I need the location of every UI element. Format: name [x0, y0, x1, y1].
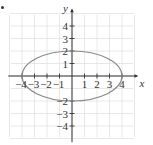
y-tick-label: −2 — [56, 95, 68, 107]
y-tick-label: 4 — [63, 20, 69, 32]
x-axis-label: x — [139, 77, 145, 89]
x-tick-label: −2 — [40, 78, 52, 90]
y-tick-label: 1 — [63, 58, 69, 70]
y-tick-label: −3 — [56, 108, 68, 120]
x-tick-label: −4 — [15, 78, 27, 90]
ellipse-plot: −4−3−2−112344321−2−3−4 x y — [0, 0, 153, 145]
x-tick-label: 2 — [94, 78, 100, 90]
y-axis-label: y — [62, 2, 68, 14]
y-tick-label: 3 — [63, 33, 69, 45]
y-tick-label: −4 — [56, 120, 68, 132]
x-tick-label: −3 — [28, 78, 40, 90]
x-tick-label: 1 — [82, 78, 88, 90]
x-tick-label: 3 — [107, 78, 113, 90]
y-tick-label: 2 — [63, 45, 69, 57]
x-tick-label: 4 — [119, 78, 125, 90]
axes — [8, 9, 138, 143]
x-tick-label: −1 — [53, 78, 65, 90]
